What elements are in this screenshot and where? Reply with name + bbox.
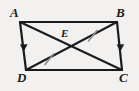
vertex-label-C: C [119, 71, 128, 84]
vertex-label-B: B [116, 6, 125, 19]
vertex-label-D: D [17, 71, 26, 84]
diagonals [20, 22, 122, 70]
diagonal-BD-line [26, 22, 117, 70]
vertex-label-A: A [10, 6, 19, 19]
parallel-arrow-BC-icon [117, 44, 125, 51]
geometry-figure: A B C D E [0, 0, 139, 91]
parallel-arrow-AD-icon [20, 44, 28, 51]
point-label-E: E [61, 28, 68, 39]
